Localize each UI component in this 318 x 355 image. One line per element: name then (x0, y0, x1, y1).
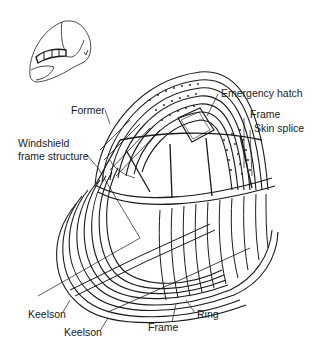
label-windshield-line2: frame structure (18, 150, 89, 162)
label-keelson-1: Keelson (28, 308, 66, 320)
label-keelson-2: Keelson (64, 326, 102, 338)
label-former: Former (71, 104, 105, 116)
label-emergency-hatch: Emergency hatch (221, 87, 303, 99)
label-frame-bottom: Frame (148, 321, 178, 333)
label-windshield-line1: Windshield (18, 137, 69, 149)
fuselage-structure-illustration (0, 0, 318, 355)
label-frame-top: Frame (250, 108, 280, 120)
label-skin-splice: Skin splice (254, 122, 304, 134)
diagram-canvas: Emergency hatch Former Frame Skin splice… (0, 0, 318, 355)
label-ring: Ring (197, 308, 219, 320)
nose-inset-drawing (30, 21, 91, 82)
